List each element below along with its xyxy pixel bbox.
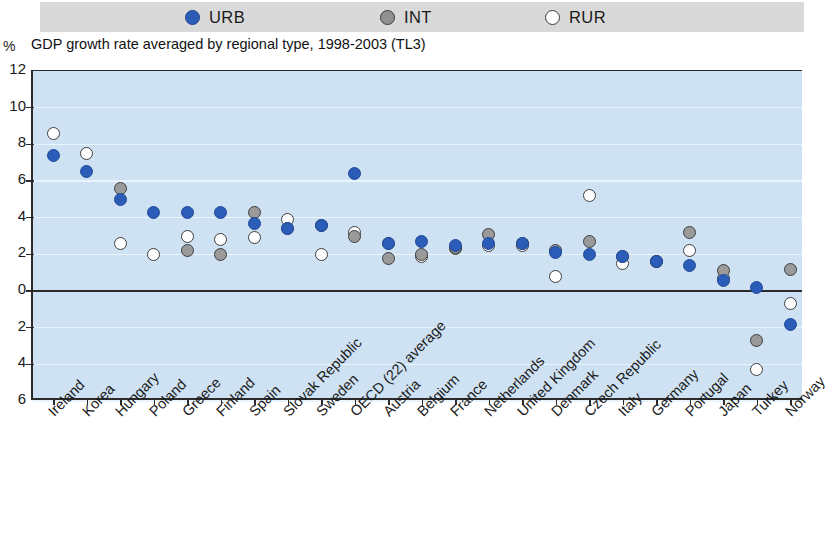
data-point-rur bbox=[248, 231, 261, 244]
gridline bbox=[33, 107, 802, 109]
legend-label-rur: RUR bbox=[569, 8, 606, 27]
data-point-int bbox=[784, 263, 797, 276]
data-point-rur bbox=[214, 233, 227, 246]
y-axis-tick-label: 4 bbox=[0, 353, 26, 370]
y-axis-tick bbox=[26, 180, 34, 182]
data-point-rur bbox=[683, 244, 696, 257]
data-point-urb bbox=[248, 217, 261, 230]
gridline bbox=[33, 364, 802, 366]
gridline bbox=[33, 327, 802, 329]
data-point-int bbox=[348, 230, 361, 243]
y-axis-tick-label: 8 bbox=[0, 133, 26, 150]
y-axis-tick-label: 6 bbox=[0, 170, 26, 187]
data-point-rur bbox=[114, 237, 127, 250]
data-point-urb bbox=[784, 318, 797, 331]
data-point-rur bbox=[147, 248, 160, 261]
y-axis-tick bbox=[26, 107, 34, 109]
y-axis-tick bbox=[26, 144, 34, 146]
legend-item-int: INT bbox=[380, 8, 432, 27]
data-point-urb bbox=[616, 250, 629, 263]
data-point-urb bbox=[114, 193, 127, 206]
gridline bbox=[33, 180, 802, 182]
data-point-urb bbox=[348, 167, 361, 180]
y-axis-tick-label: 12 bbox=[0, 60, 26, 77]
y-axis-tick bbox=[26, 217, 34, 219]
data-point-int bbox=[415, 248, 428, 261]
y-axis-tick-label: 2 bbox=[0, 317, 26, 334]
zero-line bbox=[31, 290, 802, 292]
chart-title: GDP growth rate averaged by regional typ… bbox=[31, 36, 426, 52]
y-axis-tick bbox=[26, 364, 34, 366]
legend-label-urb: URB bbox=[209, 8, 245, 27]
data-point-urb bbox=[583, 248, 596, 261]
data-point-rur bbox=[750, 363, 763, 376]
data-point-urb bbox=[717, 274, 730, 287]
data-point-rur bbox=[181, 230, 194, 243]
data-point-urb bbox=[315, 219, 328, 232]
legend-item-urb: URB bbox=[185, 8, 245, 27]
legend-label-int: INT bbox=[404, 8, 432, 27]
y-axis-tick bbox=[26, 290, 34, 292]
data-point-urb bbox=[147, 206, 160, 219]
data-point-urb bbox=[549, 246, 562, 259]
data-point-urb bbox=[415, 235, 428, 248]
data-point-rur bbox=[583, 189, 596, 202]
legend-marker-urb-icon bbox=[185, 10, 200, 25]
data-point-int bbox=[181, 244, 194, 257]
data-point-urb bbox=[281, 222, 294, 235]
y-axis-tick-label: 4 bbox=[0, 207, 26, 224]
legend-marker-int-icon bbox=[380, 10, 395, 25]
data-point-urb bbox=[516, 237, 529, 250]
data-point-urb bbox=[382, 237, 395, 250]
x-axis-labels: IrelandKoreaHungaryPolandGreeceFinlandSp… bbox=[31, 404, 802, 538]
data-point-int bbox=[382, 252, 395, 265]
data-point-rur bbox=[80, 147, 93, 160]
y-axis-tick bbox=[26, 254, 34, 256]
y-axis-unit-label: % bbox=[3, 38, 15, 54]
data-point-urb bbox=[214, 206, 227, 219]
y-axis-tick-label: 2 bbox=[0, 243, 26, 260]
data-point-rur bbox=[47, 127, 60, 140]
data-point-urb bbox=[80, 165, 93, 178]
y-axis-tick bbox=[26, 327, 34, 329]
data-point-rur bbox=[315, 248, 328, 261]
data-point-urb bbox=[482, 237, 495, 250]
data-point-urb bbox=[750, 281, 763, 294]
data-point-int bbox=[583, 235, 596, 248]
y-axis-tick-label: 6 bbox=[0, 390, 26, 407]
data-point-rur bbox=[549, 270, 562, 283]
legend-item-rur: RUR bbox=[545, 8, 606, 27]
data-point-urb bbox=[683, 259, 696, 272]
data-point-urb bbox=[181, 206, 194, 219]
data-point-int bbox=[750, 334, 763, 347]
chart-legend: URB INT RUR bbox=[40, 2, 804, 32]
data-point-int bbox=[214, 248, 227, 261]
y-axis-tick-label: 10 bbox=[0, 97, 26, 114]
data-point-urb bbox=[449, 239, 462, 252]
data-point-urb bbox=[650, 255, 663, 268]
legend-marker-rur-icon bbox=[545, 10, 560, 25]
data-point-int bbox=[683, 226, 696, 239]
data-point-urb bbox=[47, 149, 60, 162]
y-axis-tick-label: 0 bbox=[0, 280, 26, 297]
gridline bbox=[33, 144, 802, 146]
data-point-rur bbox=[784, 297, 797, 310]
